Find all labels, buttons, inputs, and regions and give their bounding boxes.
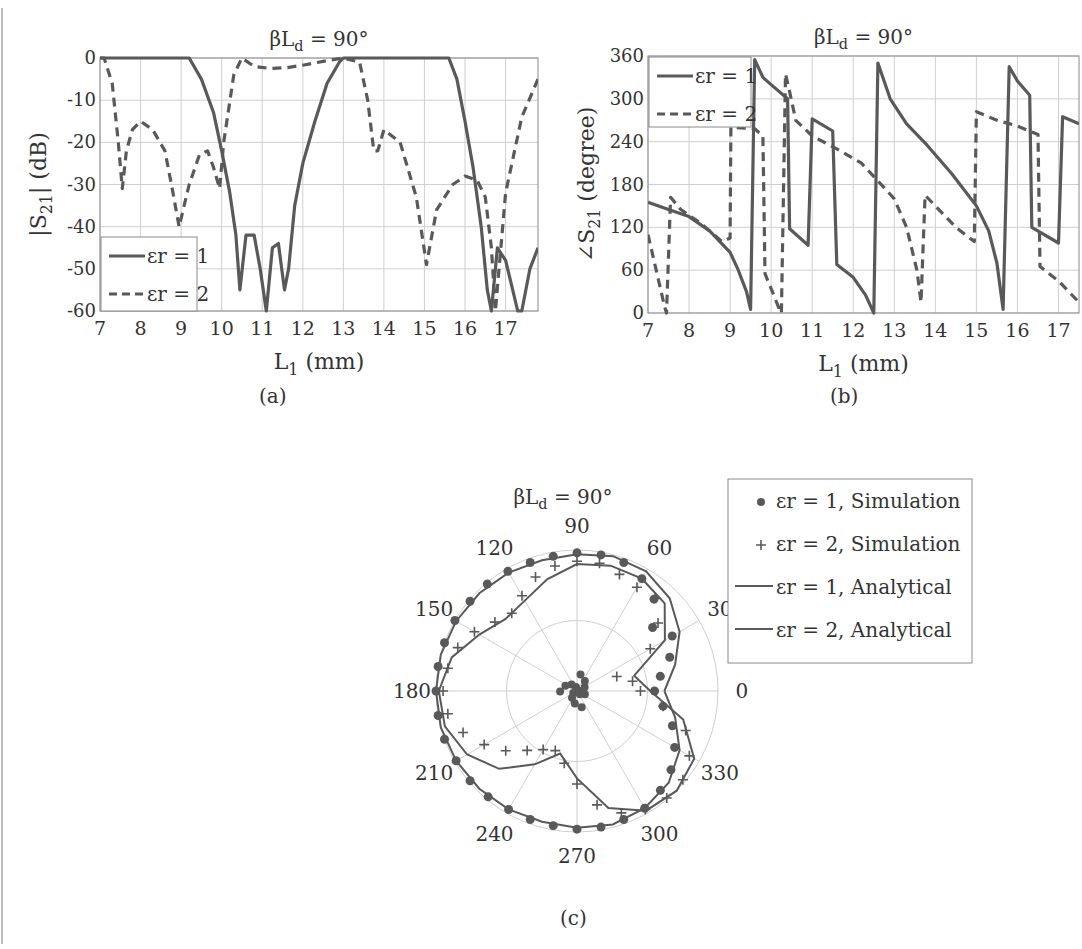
simulation-dot-marker bbox=[648, 623, 657, 632]
x-tick-label: 17 bbox=[1046, 319, 1070, 341]
simulation-dot-marker bbox=[452, 756, 461, 765]
caption-b: (b) bbox=[830, 384, 858, 408]
chart-c-polar: 0306090120150180210240270300330βLd = 90°… bbox=[393, 479, 972, 868]
y-tick-label: 180 bbox=[610, 174, 644, 195]
y-tick-label: 120 bbox=[610, 216, 644, 237]
angle-label: 300 bbox=[640, 822, 678, 846]
chart-a-magnitude: 78910111213141516170-10-20-30-40-50-60εr… bbox=[26, 27, 538, 379]
legend-label: εr = 2, Analytical bbox=[776, 618, 952, 642]
simulation-dot-marker bbox=[503, 567, 512, 576]
legend-label: εr = 1, Analytical bbox=[776, 575, 952, 599]
x-tick-label: 13 bbox=[882, 319, 906, 341]
simulation-dot-marker bbox=[526, 815, 535, 824]
simulation-dot-marker bbox=[450, 616, 459, 625]
legend-label: εr = 1 bbox=[695, 64, 757, 88]
simulation-dot-marker bbox=[573, 825, 582, 834]
simulation-dot-marker bbox=[656, 672, 665, 681]
simulation-dot-marker bbox=[596, 823, 605, 832]
legend-label: εr = 2 bbox=[695, 102, 757, 126]
legend-label: εr = 2, Simulation bbox=[776, 532, 961, 556]
simulation-plus-marker bbox=[538, 745, 548, 755]
x-axis-label: L1 (mm) bbox=[274, 349, 365, 379]
x-tick-label: 15 bbox=[412, 317, 436, 339]
simulation-plus-marker bbox=[443, 663, 453, 673]
y-tick-label: -20 bbox=[67, 131, 96, 152]
polar-spoke bbox=[507, 569, 578, 691]
simulation-dot-marker bbox=[619, 558, 628, 567]
angle-label: 270 bbox=[558, 844, 596, 868]
angle-label: 240 bbox=[475, 822, 513, 846]
simulation-plus-marker bbox=[443, 709, 453, 719]
simulation-plus-marker bbox=[632, 582, 642, 592]
origin-cluster-marker bbox=[581, 677, 589, 685]
caption-a: (a) bbox=[259, 384, 287, 408]
y-tick-label: -40 bbox=[67, 216, 96, 237]
simulation-plus-marker bbox=[681, 726, 691, 736]
simulation-plus-marker bbox=[453, 643, 463, 653]
y-axis-label: ∠S21 (degree) bbox=[574, 107, 604, 263]
simulation-dot-marker bbox=[434, 662, 443, 671]
origin-cluster-marker bbox=[578, 703, 586, 711]
simulation-dot-marker bbox=[484, 792, 493, 801]
y-tick-label: 60 bbox=[621, 259, 644, 280]
simulation-plus-marker bbox=[501, 746, 511, 756]
simulation-dot-marker bbox=[656, 786, 665, 795]
y-tick-label: -10 bbox=[67, 89, 96, 110]
polar-spoke bbox=[577, 691, 648, 813]
x-tick-label: 11 bbox=[800, 319, 824, 341]
y-tick-label: -50 bbox=[67, 258, 96, 279]
simulation-dot-marker bbox=[526, 558, 535, 567]
simulation-plus-marker bbox=[678, 775, 688, 785]
angle-label: 180 bbox=[393, 679, 431, 703]
simulation-dot-marker bbox=[483, 580, 492, 589]
simulation-dot-marker bbox=[650, 595, 659, 604]
x-tick-label: 13 bbox=[331, 317, 355, 339]
y-axis-label: |S21| (dB) bbox=[26, 132, 56, 236]
simulation-dot-marker bbox=[504, 805, 513, 814]
legend-label: εr = 1, Simulation bbox=[776, 489, 961, 513]
simulation-plus-marker bbox=[658, 701, 668, 711]
polar-spoke bbox=[577, 691, 699, 762]
simulation-dot-marker bbox=[665, 653, 674, 662]
simulation-dot-marker bbox=[596, 550, 605, 559]
simulation-plus-marker bbox=[635, 686, 645, 696]
simulation-plus-marker bbox=[595, 558, 605, 568]
x-tick-label: 16 bbox=[1005, 319, 1029, 341]
x-axis-label: L1 (mm) bbox=[818, 351, 909, 381]
origin-cluster-marker bbox=[571, 699, 579, 707]
simulation-dot-marker bbox=[666, 765, 675, 774]
x-tick-label: 12 bbox=[291, 317, 315, 339]
x-tick-label: 8 bbox=[683, 319, 695, 341]
chart-title: βLd = 90° bbox=[270, 27, 369, 54]
simulation-plus-marker bbox=[550, 561, 560, 571]
polar-legend: εr = 1, Simulationεr = 2, Simulationεr =… bbox=[728, 479, 972, 663]
caption-c: (c) bbox=[560, 906, 587, 930]
simulation-dot-marker bbox=[549, 552, 558, 561]
simulation-plus-marker bbox=[479, 740, 489, 750]
chart-title: βLd = 90° bbox=[514, 485, 613, 512]
simulation-dot-marker bbox=[650, 687, 659, 696]
x-tick-label: 9 bbox=[175, 317, 187, 339]
simulation-dot-marker bbox=[549, 821, 558, 830]
legend-label: εr = 1 bbox=[147, 244, 209, 268]
y-tick-label: 0 bbox=[85, 47, 96, 68]
y-tick-label: -60 bbox=[67, 300, 96, 321]
angle-label: 60 bbox=[647, 536, 672, 560]
origin-cluster-marker bbox=[581, 690, 589, 698]
y-tick-label: 300 bbox=[610, 88, 644, 109]
y-tick-label: 240 bbox=[610, 131, 644, 152]
simulation-dot-marker bbox=[573, 548, 582, 557]
simulation-dot-marker bbox=[670, 743, 679, 752]
y-tick-label: 360 bbox=[610, 45, 644, 66]
chart-b-phase: 7891011121314151617060120180240300360εr … bbox=[574, 25, 1079, 381]
legend: εr = 1εr = 2 bbox=[101, 237, 209, 311]
legend: εr = 1εr = 2 bbox=[649, 57, 757, 127]
legend-label: εr = 2 bbox=[147, 282, 209, 306]
simulation-dot-marker bbox=[434, 711, 443, 720]
simulation-plus-marker bbox=[522, 745, 532, 755]
figure-canvas: 78910111213141516170-10-20-30-40-50-60εr… bbox=[0, 0, 1082, 949]
origin-cluster-marker bbox=[577, 670, 585, 678]
x-tick-label: 10 bbox=[210, 317, 234, 339]
x-tick-label: 17 bbox=[493, 317, 517, 339]
x-tick-label: 11 bbox=[250, 317, 274, 339]
